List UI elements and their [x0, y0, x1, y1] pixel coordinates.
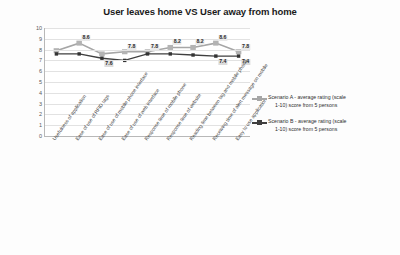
data-label: 7.8	[127, 44, 136, 50]
y-tick-label: 3	[22, 101, 42, 107]
legend-item-scenario-a[interactable]: Scenario A - average rating (scale 1-10)…	[252, 94, 398, 109]
gridline	[45, 50, 250, 51]
y-axis: 109876543210	[22, 22, 42, 142]
chart-legend: Scenario A - average rating (scale 1-10)…	[252, 94, 398, 142]
y-tick-label: 7	[22, 57, 42, 63]
data-label: 8.6	[82, 35, 91, 41]
data-point-marker	[191, 53, 194, 56]
data-label: 7.8	[241, 44, 250, 50]
y-tick-label: 1	[22, 122, 42, 128]
legend-label-b-line2: 1-10) score from 5 persons	[268, 126, 346, 134]
y-tick-label: 8	[22, 47, 42, 53]
y-tick-label: 5	[22, 79, 42, 85]
legend-label-a-line2: 1-10) score from 5 persons	[268, 102, 346, 110]
data-label: 7.6	[104, 61, 113, 67]
legend-marker-scenario-b	[252, 119, 267, 126]
data-label: 7.8	[150, 44, 159, 50]
y-tick-label: 6	[22, 68, 42, 74]
legend-label-a-line1: Scenario A - average rating (scale	[268, 94, 346, 100]
chart-container: User leaves home VS User away from home …	[0, 0, 400, 255]
data-point-marker	[214, 54, 217, 57]
y-tick-label: 4	[22, 90, 42, 96]
data-point-marker	[55, 52, 58, 55]
data-point-marker	[99, 51, 105, 56]
data-point-marker	[213, 41, 219, 46]
gridline	[45, 82, 250, 83]
gridline	[45, 28, 250, 29]
data-label: 8.2	[195, 39, 204, 45]
data-point-marker	[237, 54, 240, 57]
data-point-marker	[169, 52, 172, 55]
data-point-marker	[76, 41, 82, 46]
y-tick-label: 9	[22, 36, 42, 42]
data-point-marker	[146, 52, 149, 55]
data-label: 8.6	[218, 35, 227, 41]
legend-label-scenario-b: Scenario B - average rating (scale 1-10)…	[267, 118, 346, 133]
legend-label-b-line1: Scenario B - average rating (scale	[268, 118, 346, 124]
data-label: 8.2	[173, 39, 182, 45]
y-tick-label: 10	[22, 25, 42, 31]
y-tick-label: 0	[22, 133, 42, 139]
legend-label-scenario-a: Scenario A - average rating (scale 1-10)…	[267, 94, 346, 109]
legend-item-scenario-b[interactable]: Scenario B - average rating (scale 1-10)…	[252, 118, 398, 133]
gridline	[45, 114, 250, 115]
y-tick-label: 2	[22, 111, 42, 117]
data-label: 7.4	[218, 59, 227, 65]
chart-title: User leaves home VS User away from home	[0, 6, 400, 17]
data-point-marker	[77, 52, 80, 55]
legend-marker-scenario-a	[252, 95, 267, 102]
plot-area: 8.67.67.87.88.28.27.48.67.87.4	[44, 28, 250, 137]
gridline	[45, 71, 250, 72]
x-axis-labels: Usefulness of applicationEase of use of …	[44, 136, 259, 246]
